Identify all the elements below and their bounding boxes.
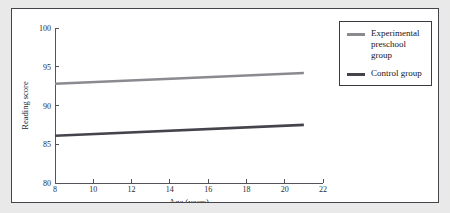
y-tick-label: 80 [43,179,51,188]
x-tick-label: 12 [128,185,136,194]
y-tick-label: 100 [39,24,51,33]
x-axis-title: Age (years) [169,197,209,202]
x-tick-label: 22 [319,185,327,194]
series-line [55,125,304,136]
y-tick-label: 95 [43,63,51,72]
legend-swatch-experimental [347,33,365,36]
legend-label-experimental: Experimental preschool group [371,28,423,61]
x-tick-label: 16 [204,185,212,194]
x-tick-label: 8 [53,185,57,194]
y-axis-title: Reading score [20,81,30,130]
legend-swatch-control [347,73,365,76]
legend-item-experimental: Experimental preschool group [347,28,423,61]
y-tick-label: 90 [43,102,51,111]
y-axis-tick-labels: 80859095100 [39,24,51,188]
data-series-group [55,73,304,136]
legend-label-control: Control group [371,68,422,79]
chart-legend: Experimental preschool group Control gro… [339,21,432,86]
x-tick-label: 10 [89,185,97,194]
x-tick-label: 18 [242,185,250,194]
x-tick-label: 20 [281,185,289,194]
x-axis-tick-labels: 810121416182022 [53,185,327,194]
x-axis-ticks [55,179,323,183]
figure-frame: 80859095100 810121416182022 Age (years) … [11,8,439,203]
series-line [55,73,304,84]
legend-item-control: Control group [347,68,423,79]
y-axis-ticks [55,28,59,183]
y-tick-label: 85 [43,140,51,149]
x-tick-label: 14 [166,185,174,194]
